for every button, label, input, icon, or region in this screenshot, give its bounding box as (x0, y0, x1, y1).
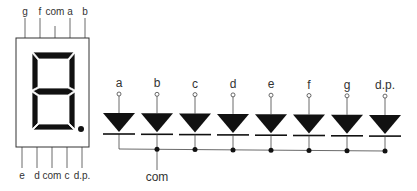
pin-label-d: d (34, 170, 40, 181)
terminal-icon (155, 92, 159, 96)
terminal-icon (269, 93, 273, 97)
terminal-icon (383, 94, 387, 98)
anode-label: e (268, 77, 275, 91)
diode-triangle-icon (293, 115, 325, 134)
diode-triangle-icon (217, 114, 249, 133)
terminal-icon (307, 94, 311, 98)
pin-label-dp: d.p. (74, 170, 91, 181)
common-label: com (146, 170, 169, 184)
junction-dot (307, 148, 312, 153)
anode-label: g (344, 78, 351, 92)
diode-triangle-icon (103, 113, 135, 132)
pin-label-b: b (82, 6, 88, 17)
junction-dot (155, 147, 160, 152)
diode-triangle-icon (331, 115, 363, 134)
diode-triangle-icon (141, 113, 173, 132)
diode-triangle-icon (179, 114, 211, 133)
display-package: g f com a b e d com c d.p. (16, 6, 90, 181)
anode-label: f (307, 78, 311, 92)
anode-label: d.p. (375, 78, 395, 92)
diode-dp: d.p. (369, 78, 401, 154)
decimal-point (78, 126, 84, 132)
led-schematic: com (119, 134, 385, 184)
junction-dot (345, 148, 350, 153)
diode-a: a (103, 76, 135, 134)
terminal-icon (345, 94, 349, 98)
anode-label: c (192, 77, 198, 91)
pin-label-c: c (65, 170, 70, 181)
terminal-icon (193, 93, 197, 97)
junction-dot (231, 147, 236, 152)
anode-label: b (154, 76, 161, 90)
diode-e: e (255, 77, 287, 153)
pin-label-com-top: com (46, 6, 65, 17)
junction-dot (269, 148, 274, 153)
pin-label-a: a (67, 6, 73, 17)
pin-label-com-bottom: com (43, 170, 62, 181)
diode-b: b (141, 76, 173, 152)
terminal-icon (117, 92, 121, 96)
junction-dot (193, 147, 198, 152)
anode-label: d (230, 77, 237, 91)
diode-triangle-icon (369, 115, 401, 134)
anode-label: a (116, 76, 123, 90)
pin-label-e: e (19, 170, 25, 181)
pin-label-g: g (22, 6, 28, 17)
pin-label-f: f (39, 6, 42, 17)
diode-f: f (293, 78, 325, 154)
seven-segment-diagram: g f com a b e d com c d.p. com abcdefgd.… (0, 0, 417, 191)
diode-triangle-icon (255, 114, 287, 133)
terminal-icon (231, 93, 235, 97)
diode-c: c (179, 77, 211, 153)
diode-g: g (331, 78, 363, 154)
diode-d: d (217, 77, 249, 152)
junction-dot (383, 149, 388, 154)
